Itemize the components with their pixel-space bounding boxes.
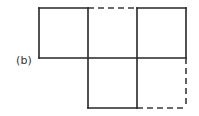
figure-cube-net-panel-b: (b) <box>0 0 199 116</box>
face-bottom-right <box>137 58 186 108</box>
cube-net-drawing <box>0 0 199 116</box>
face-top-middle <box>88 8 137 58</box>
face-top-left <box>39 8 88 58</box>
face-top-right <box>137 8 186 58</box>
face-bottom-middle <box>88 58 137 108</box>
